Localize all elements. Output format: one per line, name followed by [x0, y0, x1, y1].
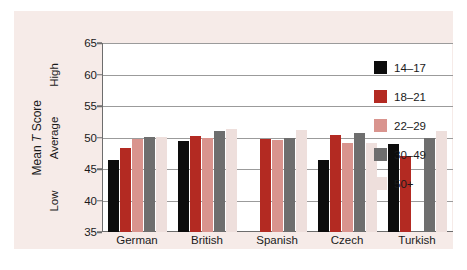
- bar[interactable]: [226, 129, 237, 232]
- bar[interactable]: [178, 141, 189, 232]
- bar-group: [102, 43, 172, 232]
- x-axis-label: Turkish: [398, 234, 435, 246]
- x-axis-label: German: [116, 234, 158, 246]
- x-axis-label: British: [191, 234, 223, 246]
- y-axis-title-text: Mean T Score: [30, 100, 44, 175]
- y-axis-tick-labels: 35404550556065: [64, 43, 97, 232]
- y-tick-label: 65: [84, 37, 97, 49]
- bar[interactable]: [260, 139, 271, 232]
- y-axis-zone-label: Low: [48, 190, 60, 211]
- legend-item[interactable]: 18–21: [374, 82, 454, 111]
- bar[interactable]: [190, 136, 201, 232]
- legend-item[interactable]: 14–17: [374, 53, 454, 82]
- bar-group: [242, 43, 312, 232]
- legend-swatch-icon: [374, 61, 387, 74]
- legend-item[interactable]: 22–29: [374, 111, 454, 140]
- bar[interactable]: [272, 140, 283, 232]
- legend-swatch-icon: [374, 119, 387, 132]
- bar[interactable]: [132, 139, 143, 232]
- legend-label: 30–49: [394, 149, 426, 161]
- legend-label: 50+: [394, 178, 414, 190]
- bar[interactable]: [342, 143, 353, 232]
- bar[interactable]: [108, 160, 119, 232]
- y-axis-zone-label: High: [48, 63, 60, 87]
- legend-swatch-icon: [374, 90, 387, 103]
- legend-item[interactable]: 30–49: [374, 140, 454, 169]
- x-axis-labels: GermanBritishSpanishCzechTurkish: [102, 234, 452, 254]
- x-axis-label: Czech: [331, 234, 364, 246]
- y-tick-label: 60: [84, 69, 97, 81]
- bar[interactable]: [330, 135, 341, 232]
- bar[interactable]: [284, 138, 295, 233]
- legend-label: 22–29: [394, 120, 426, 132]
- bar[interactable]: [296, 130, 307, 232]
- bar[interactable]: [144, 137, 155, 232]
- y-tick-label: 35: [84, 226, 97, 238]
- bar[interactable]: [202, 138, 213, 233]
- y-axis-title-italic: T: [30, 134, 44, 141]
- legend-label: 18–21: [394, 91, 426, 103]
- chart-panel: Mean T Score LowAverageHigh 354045505560…: [14, 11, 453, 249]
- bar-group: [172, 43, 242, 232]
- legend-label: 14–17: [394, 62, 426, 74]
- bar[interactable]: [354, 133, 365, 232]
- y-tick-label: 45: [84, 163, 97, 175]
- x-axis-label: Spanish: [256, 234, 298, 246]
- legend-swatch-icon: [374, 148, 387, 161]
- y-tick-label: 40: [84, 195, 97, 207]
- y-axis-title: Mean T Score: [28, 43, 46, 232]
- legend: 14–1718–2122–2930–4950+: [374, 53, 454, 198]
- y-tick-label: 50: [84, 132, 97, 144]
- legend-swatch-icon: [374, 177, 387, 190]
- y-axis-zone-label: Average: [48, 116, 60, 159]
- bar[interactable]: [318, 160, 329, 232]
- bar[interactable]: [214, 131, 225, 232]
- y-tick-label: 55: [84, 100, 97, 112]
- bar[interactable]: [120, 148, 131, 232]
- figure: Mean T Score LowAverageHigh 354045505560…: [0, 0, 467, 270]
- legend-item[interactable]: 50+: [374, 169, 454, 198]
- bar[interactable]: [156, 137, 167, 232]
- bar-group: [312, 43, 382, 232]
